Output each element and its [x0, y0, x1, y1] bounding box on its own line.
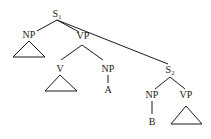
node-np-subject: NP — [23, 29, 36, 40]
node-np-s2: NP — [146, 89, 159, 100]
node-s1: S1 — [53, 8, 62, 20]
node-a: A — [104, 84, 112, 95]
edge-vp1-np — [82, 45, 103, 60]
node-b: B — [149, 116, 156, 127]
edge-s2-np — [155, 77, 170, 89]
node-vp2: VP — [180, 89, 193, 100]
edge-vp1-v — [61, 45, 82, 60]
edge-s1-s2 — [57, 20, 168, 64]
node-s2: S2 — [166, 64, 175, 76]
node-vp1: VP — [77, 30, 90, 41]
node-np-object: NP — [102, 63, 115, 74]
triangle-np-subject — [13, 41, 45, 57]
edge-s1-np — [37, 20, 57, 31]
syntax-tree-diagram: S1 NP VP V NP A S2 NP B VP — [0, 0, 211, 139]
triangle-vp2 — [171, 106, 202, 124]
triangle-v — [45, 75, 77, 91]
node-v: V — [56, 63, 64, 74]
edge-s2-vp — [170, 77, 185, 89]
